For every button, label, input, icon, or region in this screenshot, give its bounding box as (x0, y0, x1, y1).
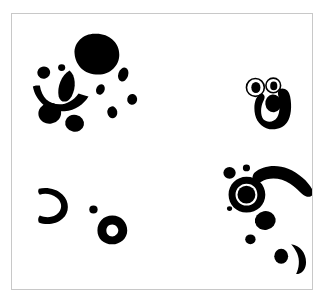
blob-dot-right-lower (126, 93, 138, 105)
lower-left-cluster (38, 188, 127, 244)
blob-dot-small-upper (58, 64, 65, 71)
pupil-left (251, 82, 260, 93)
hook-open-stroke (38, 188, 68, 224)
ring-thick-lower-left (97, 216, 127, 245)
lower-right-cluster (223, 165, 312, 275)
plot-frame (11, 13, 313, 290)
blob-dot-lr-mid (253, 209, 277, 231)
blob-dot-right-mid (107, 106, 118, 119)
blob-dot-right-upper (116, 66, 130, 83)
blob-canvas (12, 14, 312, 289)
blob-dot-between (89, 206, 97, 214)
upper-left-cluster (33, 34, 138, 134)
blob-dot-lr-topleft (223, 167, 235, 179)
ring-lr-center-fill (237, 186, 255, 204)
blob-dot-lr-small (245, 234, 255, 244)
blob-dot-left-eye (36, 65, 52, 80)
blob-large-head (75, 34, 120, 75)
pupil-right (270, 82, 277, 91)
blob-teardrop-nose (58, 71, 75, 102)
crescent-shape (291, 244, 306, 274)
blob-dot-lower-mid (64, 113, 86, 133)
upper-right-cluster (246, 78, 291, 129)
blob-dot-lr-tiny-top (243, 165, 250, 172)
blob-dot-lr-crescent-left (274, 249, 288, 264)
blob-dot-center-small (94, 83, 106, 96)
figure-root (0, 0, 328, 304)
blob-dot-top-tiny (103, 45, 111, 53)
blob-dot-lr-micro (227, 206, 232, 211)
ink-layer (33, 34, 312, 274)
